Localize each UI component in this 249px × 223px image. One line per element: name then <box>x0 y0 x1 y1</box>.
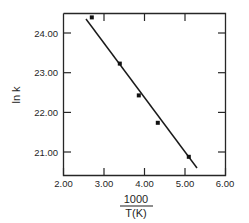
x-tick-label-2: 2.00 <box>54 178 73 189</box>
data-point <box>187 155 191 159</box>
x-axis-title-denominator: T(K) <box>125 207 146 219</box>
y-tick-label-24: 24.00 <box>34 28 58 39</box>
data-point <box>137 93 141 97</box>
y-tick-label-22: 22.00 <box>34 107 58 118</box>
y-axis-title: ln k <box>10 86 22 104</box>
y-tick-label-21: 21.00 <box>34 147 58 158</box>
x-tick-label-3: 3.00 <box>95 178 114 189</box>
plot-svg: 24.00 23.00 22.00 21.00 2.00 3.00 4.00 5… <box>0 0 249 223</box>
data-point <box>156 121 160 125</box>
x-tick-label-4: 4.00 <box>135 178 154 189</box>
arrhenius-plot-figure: 24.00 23.00 22.00 21.00 2.00 3.00 4.00 5… <box>0 0 249 223</box>
x-tick-label-6: 6.00 <box>216 178 235 189</box>
data-point <box>118 62 122 66</box>
y-tick-label-23: 23.00 <box>34 67 58 78</box>
x-tick-label-5: 5.00 <box>176 178 195 189</box>
data-point <box>90 15 94 19</box>
x-axis-title-numerator: 1000 <box>124 193 148 205</box>
